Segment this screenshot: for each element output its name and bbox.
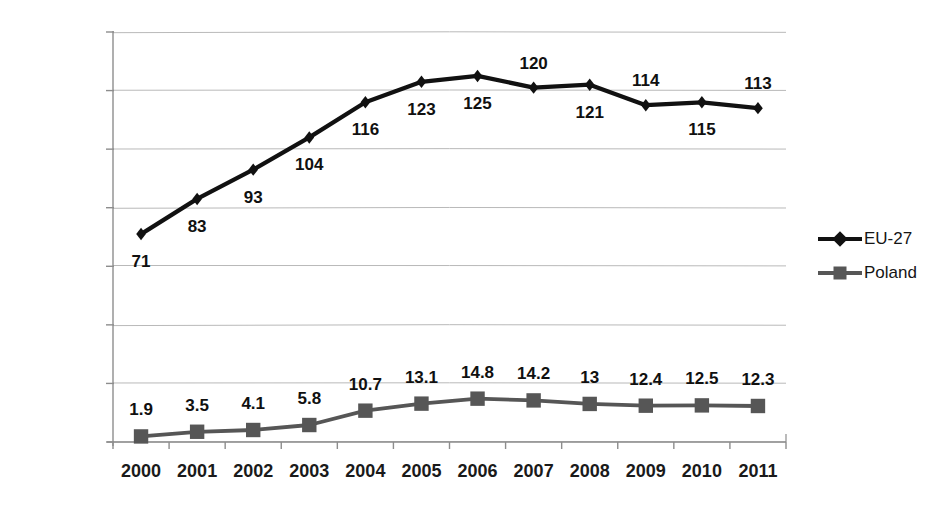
data-point-marker — [246, 423, 260, 437]
x-axis-tick-label: 2005 — [401, 461, 441, 482]
data-label: 115 — [688, 120, 715, 140]
diamond-marker-icon — [818, 230, 862, 248]
data-point-marker — [583, 397, 597, 411]
data-label: 14.8 — [461, 363, 494, 383]
x-axis-tick-label: 2006 — [458, 461, 498, 482]
data-label: 113 — [744, 74, 771, 94]
data-point-marker — [639, 398, 653, 412]
data-label: 114 — [632, 71, 659, 91]
data-label: 3.5 — [185, 396, 209, 416]
data-label: 120 — [519, 54, 547, 74]
data-label: 4.1 — [241, 394, 265, 414]
chart-legend: EU-27Poland — [818, 222, 938, 290]
data-point-marker — [134, 429, 148, 443]
x-axis-tick-label: 2003 — [289, 461, 329, 482]
data-label: 10.7 — [349, 375, 382, 395]
data-label: 13.1 — [405, 368, 438, 388]
x-axis-tick-label: 2007 — [514, 461, 554, 482]
data-label: 13 — [580, 368, 599, 388]
data-label: 93 — [244, 188, 263, 208]
data-label: 1.9 — [129, 400, 153, 420]
x-axis-tick-label: 2004 — [345, 461, 385, 482]
data-point-marker — [751, 399, 765, 413]
data-label: 14.2 — [517, 364, 550, 384]
legend-item-eu-27[interactable]: EU-27 — [818, 222, 938, 256]
data-point-marker — [302, 418, 316, 432]
data-point-marker — [358, 403, 372, 417]
data-label: 12.3 — [741, 370, 774, 390]
data-point-marker — [526, 393, 540, 407]
data-point-marker — [190, 425, 204, 439]
data-label: 104 — [295, 155, 323, 175]
data-label: 116 — [352, 120, 379, 140]
square-marker-icon — [818, 264, 862, 282]
x-axis-tick-label: 2009 — [626, 461, 666, 482]
data-label: 12.4 — [629, 370, 662, 390]
data-label: 125 — [463, 94, 491, 114]
x-axis-tick-label: 2008 — [570, 461, 610, 482]
line-chart: Thousands 020406080100120140 20002001200… — [0, 0, 944, 506]
legend-item-poland[interactable]: Poland — [818, 256, 938, 290]
data-label: 5.8 — [297, 389, 321, 409]
legend-label: Poland — [864, 263, 917, 283]
data-label: 123 — [407, 100, 435, 120]
data-point-marker — [414, 396, 428, 410]
data-point-marker — [470, 391, 484, 405]
x-axis-tick-label: 2002 — [233, 461, 273, 482]
legend-label: EU-27 — [864, 229, 912, 249]
x-axis-tick-label: 2001 — [177, 461, 217, 482]
data-point-marker — [695, 398, 709, 412]
x-axis-tick-label: 2010 — [682, 461, 722, 482]
x-axis-tick-label: 2011 — [738, 461, 777, 482]
data-label: 71 — [132, 252, 151, 272]
data-label: 12.5 — [685, 369, 718, 389]
data-label: 121 — [576, 103, 604, 123]
data-label: 83 — [188, 217, 207, 237]
x-axis-tick-label: 2000 — [121, 461, 161, 482]
